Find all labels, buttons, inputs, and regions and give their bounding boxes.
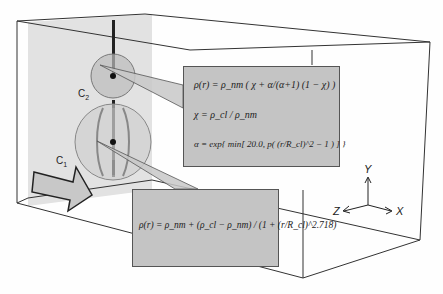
equation-panel-top: ρ(r) = ρ_nm ( χ + α/(α+1) (1 − χ) ) χ = … [183,66,340,167]
equation-panel-bottom: ρ(r) = ρ_nm + (ρ_cl − ρ_nm) / (1 + (r/R_… [132,189,279,267]
axis-label-x: X [396,205,403,217]
label-c1: C1 [56,155,67,168]
equation-density-c2: ρ(r) = ρ_nm ( χ + α/(α+1) (1 − χ) ) [194,79,335,90]
label-c2: C2 [78,88,89,101]
equation-density-c1: ρ(r) = ρ_nm + (ρ_cl − ρ_nm) / (1 + (r/R_… [139,220,336,230]
axis-label-z: Z [333,205,340,217]
equation-alpha: α = exp{ min[ 20.0, p( (r/R_cl)^2 − 1 ) … [194,139,346,149]
diagram-canvas: C2 C1 Y X Z ρ(r) = ρ_nm ( χ + α/(α+1) (1… [0,0,443,294]
equation-chi: χ = ρ_cl / ρ_nm [194,109,257,120]
axis-label-y: Y [364,163,371,175]
